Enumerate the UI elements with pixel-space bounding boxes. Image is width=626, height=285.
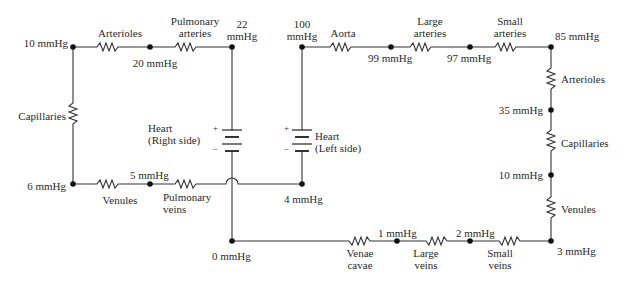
node-pressure-label: 85 mmHg	[555, 30, 599, 42]
node-pressure-label: 10 mmHg	[480, 169, 543, 181]
node-pressure-label: 20 mmHg	[120, 57, 190, 69]
minus-sign: –	[213, 142, 218, 154]
resistor-capillaries-sys	[547, 110, 555, 175]
resistor-label: Small arteries	[475, 15, 545, 39]
resistor-label: Small veins	[470, 247, 530, 271]
node-pressure-label: 97 mmHg	[447, 52, 491, 64]
resistor-label: Venules	[85, 194, 155, 206]
resistor-label: Capillaries	[561, 137, 609, 149]
resistor-capillaries-pulm	[69, 47, 77, 184]
resistor-label: Venules	[561, 203, 596, 215]
resistor-label: Pulmonary veins	[163, 191, 211, 215]
plus-sign: +	[213, 122, 218, 134]
circuit-diagram	[0, 0, 626, 285]
minus-sign: –	[284, 142, 289, 154]
resistor-large-arteries	[391, 43, 470, 51]
battery-heart-left	[292, 125, 312, 163]
resistor-venules-pulm	[73, 180, 150, 188]
node-pressure-label: 35 mmHg	[480, 104, 543, 116]
node-pressure-label: 6 mmHg	[8, 180, 66, 192]
resistor-label: Arterioles	[85, 27, 155, 39]
heart-label: Heart (Left side)	[315, 130, 361, 154]
node-pressure-label: 1 mmHg	[378, 227, 417, 239]
node-pressure-label: 5 mmHg	[130, 169, 169, 181]
node-pressure-label: 2 mmHg	[456, 227, 495, 239]
battery-heart-right	[222, 125, 242, 170]
resistor-arterioles-pulm	[73, 43, 150, 51]
node-pressure-label: 10 mmHg	[8, 37, 68, 49]
plus-sign: +	[284, 122, 289, 134]
node-pressure-label: 3 mmHg	[557, 245, 596, 257]
node-pressure-label: 22 mmHg	[222, 18, 262, 42]
resistor-label: Arterioles	[561, 73, 605, 85]
resistor-pulmonary-veins	[150, 178, 302, 188]
node-pressure-label: 99 mmHg	[368, 52, 412, 64]
resistor-label: Pulmonary arteries	[160, 15, 230, 39]
resistor-venae-cavae	[232, 237, 397, 245]
resistor-label: Large arteries	[395, 15, 465, 39]
node-pressure-label: 0 mmHg	[212, 250, 251, 262]
resistor-aorta	[302, 43, 391, 51]
heart-label: Heart (Right side)	[148, 122, 200, 146]
resistor-label: Venae cavae	[330, 247, 390, 271]
resistor-label: Large veins	[396, 247, 456, 271]
resistor-label: Capillaries	[8, 110, 66, 122]
resistor-venules-sys	[547, 175, 555, 241]
node-pressure-label: 4 mmHg	[284, 193, 323, 205]
resistor-arterioles-sys	[547, 47, 555, 110]
resistor-small-arteries	[470, 43, 551, 51]
resistor-pulmonary-arteries	[150, 43, 232, 51]
resistor-label: Aorta	[313, 27, 373, 39]
